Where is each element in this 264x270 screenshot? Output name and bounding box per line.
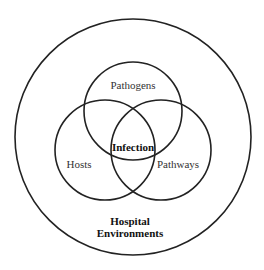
label-hosts: Hosts <box>66 158 91 170</box>
label-infection: Infection <box>112 141 154 153</box>
venn-diagram: Pathogens Hosts Pathways Infection Hospi… <box>0 0 264 270</box>
label-environments: Environments <box>97 227 164 239</box>
label-pathways: Pathways <box>157 158 199 170</box>
label-pathogens: Pathogens <box>110 79 155 91</box>
label-hospital: Hospital <box>110 215 150 227</box>
